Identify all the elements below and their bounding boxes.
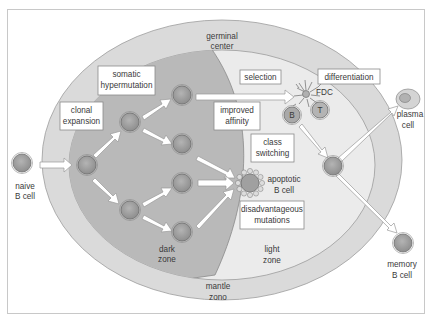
svg-text:clonal: clonal	[71, 106, 93, 115]
light-zone-label: light	[264, 245, 280, 254]
memory-b-cell	[393, 233, 414, 254]
svg-text:mutations: mutations	[254, 216, 290, 225]
plasma-cell-label-2: cell	[402, 121, 414, 130]
dark-zone-label-2: zone	[158, 255, 176, 264]
clone-cell-3	[120, 200, 141, 221]
clone-cell-2	[120, 112, 141, 133]
svg-text:improved: improved	[220, 106, 254, 115]
mantle-zone-label-2: zono	[209, 293, 227, 302]
svg-text:affinity: affinity	[225, 117, 249, 126]
dark-zone-label: dark	[159, 245, 176, 254]
naive-b-cell-label: naive	[15, 182, 35, 191]
clone-cell-6	[172, 173, 193, 194]
svg-text:disadvantageous: disadvantageous	[241, 205, 303, 214]
germinal-center-diagram: germinal center dark zone light zone man…	[0, 0, 431, 323]
memory-b-cell-label-2: B cell	[392, 271, 412, 280]
svg-text:expansion: expansion	[63, 117, 101, 126]
svg-text:somatic: somatic	[112, 70, 140, 79]
t-cell-marker: T	[311, 101, 330, 120]
germinal-center-label-2: center	[211, 42, 234, 51]
germinal-center-label: germinal	[206, 32, 238, 41]
somatic-hypermutation-box: somatic hypermutation	[98, 66, 155, 95]
naive-b-cell	[12, 153, 33, 174]
plasma-cell	[396, 89, 420, 109]
disadvantageous-mutations-box: disadvantageous mutations	[240, 201, 304, 229]
svg-text:differentiation: differentiation	[324, 73, 373, 82]
fdc-label: FDC	[316, 88, 333, 97]
selected-b-cell	[323, 156, 344, 177]
naive-b-cell-label-2: B cell	[15, 192, 35, 201]
apoptotic-b-cell-label: apoptotic	[267, 175, 300, 184]
svg-text:switching: switching	[256, 149, 290, 158]
clone-cell-7	[172, 222, 193, 243]
selection-box: selection	[240, 70, 281, 84]
clone-cell-4	[172, 85, 193, 106]
clonal-expansion-box: clonal expansion	[60, 102, 103, 130]
b-cell-marker: B	[283, 106, 302, 125]
mantle-zone-label: mantle	[206, 282, 231, 291]
apoptotic-b-cell-label-2: B cell	[274, 186, 294, 195]
class-switching-box: class switching	[251, 134, 294, 162]
light-zone-label-2: zone	[263, 256, 281, 265]
svg-text:class: class	[263, 138, 282, 147]
b-label: B	[289, 111, 295, 120]
svg-text:selection: selection	[244, 73, 277, 82]
differentiation-box: differentiation	[318, 69, 380, 84]
clone-cell-5	[172, 134, 193, 155]
svg-text:hypermutation: hypermutation	[101, 81, 153, 90]
clone-cell-1	[77, 155, 98, 176]
improved-affinity-box: improved affinity	[214, 102, 260, 130]
t-label: T	[317, 106, 322, 115]
plasma-cell-label: plasma	[397, 110, 424, 119]
memory-b-cell-label: memory	[387, 260, 417, 269]
